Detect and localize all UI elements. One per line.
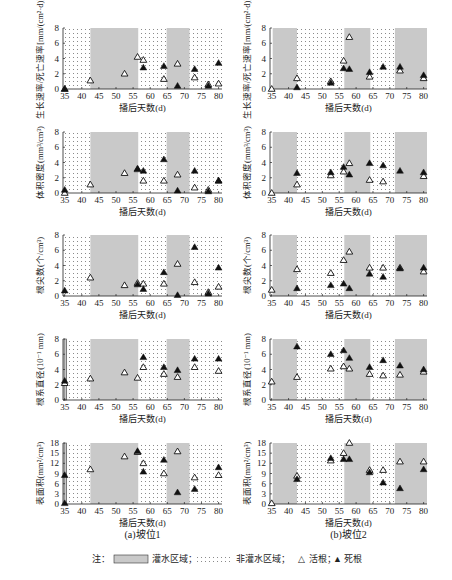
chart-panel-a4: 0246835404550556065707580播后天数(d)根系直径(10⁻… [35,333,224,424]
x-tick-label: 80 [214,91,224,101]
live-root-legend-icon: △ [298,554,305,564]
x-tick-label: 80 [419,298,429,308]
y-tick-label: 4 [55,261,60,271]
x-tick-label: 45 [94,402,104,412]
legend-non-irrigated-label: 非灌水区域； [236,553,290,564]
y-tick-label: 4 [262,365,267,375]
y-tick-label: 6 [55,38,60,48]
irrigated-region [90,443,138,504]
dead-root-legend-icon: ▲ [333,554,342,564]
y-tick-label: 6 [55,479,60,489]
y-tick-label: 2 [55,69,60,79]
y-tick-label: 3 [262,489,267,499]
y-tick-label: 4 [55,158,60,168]
irrigated-region [344,443,370,504]
y-axis-label: 根尖数(个/cm³) [242,237,252,294]
y-tick-label: 0 [55,188,60,198]
x-tick-label: 35 [267,298,277,308]
y-tick-label: 8 [262,127,267,137]
x-tick-label: 55 [129,195,139,205]
y-axis-label: 体积密度(mm³/cm³) [35,126,45,199]
x-tick-label: 75 [197,298,207,308]
y-tick-label: 0 [55,84,60,94]
irrigated-region [90,28,138,89]
x-axis-label: 播后天数(d) [119,517,166,528]
x-tick-label: 45 [301,91,311,101]
irrigated-region [273,339,297,400]
x-tick-label: 55 [335,91,345,101]
y-tick-label: 9 [262,469,267,479]
irrigated-region [167,28,190,89]
irrigated-region [90,132,138,193]
x-axis-label: 播后天数(d) [325,517,372,528]
irrigated-swatch [114,555,148,563]
y-tick-label: 2 [262,69,267,79]
x-tick-label: 50 [318,195,328,205]
non-irrigated-region [63,132,222,193]
y-axis-label: 表面积(mm²/cm³) [242,441,252,505]
y-tick-label: 2 [262,276,267,286]
y-tick-label: 8 [262,334,267,344]
y-tick-label: 6 [55,245,60,255]
x-tick-label: 40 [77,195,87,205]
x-tick-label: 75 [197,402,207,412]
x-tick-label: 70 [180,402,190,412]
x-tick-label: 75 [402,506,412,516]
y-tick-label: 15 [50,448,60,458]
y-tick-label: 0 [262,291,267,301]
y-tick-label: 3 [55,489,60,499]
irrigated-region [273,28,297,89]
x-tick-label: 45 [301,195,311,205]
legend-prefix: 注： [92,553,110,564]
live-root-marker [346,440,353,446]
y-tick-label: 6 [262,349,267,359]
irrigated-region [90,339,138,400]
x-tick-label: 45 [301,402,311,412]
x-tick-label: 60 [352,91,362,101]
x-tick-label: 50 [112,91,122,101]
x-tick-label: 75 [197,506,207,516]
x-tick-label: 35 [267,506,277,516]
x-tick-label: 70 [385,298,395,308]
x-tick-label: 55 [129,506,139,516]
x-axis-label: 播后天数(d) [325,206,372,217]
y-tick-label: 9 [55,469,60,479]
x-tick-label: 65 [368,298,378,308]
x-tick-label: 70 [385,402,395,412]
y-tick-label: 6 [55,142,60,152]
figure: 0246835404550556065707580播后天数(d)生长速率/死亡速… [0,0,452,580]
x-tick-label: 70 [385,195,395,205]
legend-live-label: 活根； [309,553,336,564]
x-tick-label: 50 [318,506,328,516]
column-caption: (a)坡位1 [124,528,160,541]
x-tick-label: 60 [146,298,156,308]
x-tick-label: 75 [197,91,207,101]
chart-panel-b4: 0246835404550556065707580播后天数(d)根系直径(10⁻… [242,333,429,424]
x-tick-label: 40 [284,402,294,412]
y-tick-label: 8 [55,230,60,240]
y-tick-label: 18 [50,438,60,448]
y-tick-label: 6 [262,479,267,489]
x-tick-label: 45 [94,91,104,101]
irrigated-region [273,443,297,504]
y-tick-label: 0 [262,84,267,94]
x-tick-label: 45 [94,195,104,205]
x-tick-label: 45 [301,298,311,308]
x-tick-label: 75 [402,91,412,101]
y-tick-label: 4 [55,365,60,375]
x-tick-label: 55 [129,402,139,412]
y-tick-label: 4 [262,54,267,64]
y-axis-label: 根系直径(10⁻¹ mm) [242,333,252,406]
irrigated-region [395,443,427,504]
y-tick-label: 0 [262,499,267,509]
x-tick-label: 35 [267,402,277,412]
irrigated-region [395,132,427,193]
x-tick-label: 65 [368,91,378,101]
y-tick-label: 2 [55,276,60,286]
x-tick-label: 35 [60,298,70,308]
y-tick-label: 4 [262,261,267,271]
y-tick-label: 2 [55,380,60,390]
x-tick-label: 80 [419,506,429,516]
x-tick-label: 45 [94,298,104,308]
y-tick-label: 15 [257,448,267,458]
